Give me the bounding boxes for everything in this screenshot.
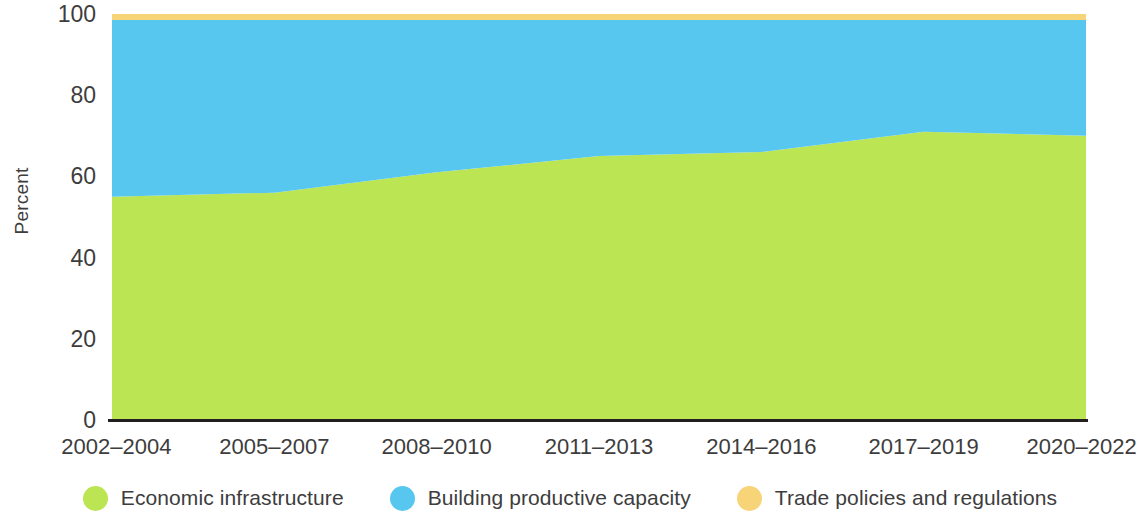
x-tick-label: 2002–2004 bbox=[61, 432, 171, 462]
y-tick-label: 100 bbox=[0, 3, 96, 26]
x-tick-label: 2011–2013 bbox=[545, 432, 654, 462]
x-tick-label: 2005–2007 bbox=[219, 432, 329, 462]
y-tick-label: 40 bbox=[0, 246, 96, 269]
y-axis-tick-labels: 100806040200 bbox=[0, 0, 96, 440]
x-tick-label: 2008–2010 bbox=[382, 432, 492, 462]
x-tick-label: 2020–2022 bbox=[1027, 432, 1137, 462]
x-axis-line bbox=[108, 419, 1088, 422]
legend-label: Economic infrastructure bbox=[121, 486, 344, 510]
x-tick-label: 2014–2016 bbox=[706, 432, 816, 462]
plot-area bbox=[112, 0, 1086, 426]
x-tick-label: 2017–2019 bbox=[869, 432, 979, 462]
y-tick-label: 80 bbox=[0, 84, 96, 107]
legend-label: Trade policies and regulations bbox=[775, 486, 1057, 510]
legend-item[interactable]: Building productive capacity bbox=[390, 486, 691, 511]
legend-swatch-icon bbox=[83, 486, 108, 511]
legend-label: Building productive capacity bbox=[428, 486, 691, 510]
chart-legend: Economic infrastructureBuilding producti… bbox=[0, 478, 1140, 518]
legend-swatch-icon bbox=[737, 486, 762, 511]
area-series-svg bbox=[112, 0, 1086, 426]
legend-item[interactable]: Economic infrastructure bbox=[83, 486, 344, 511]
y-tick-label: 60 bbox=[0, 165, 96, 188]
y-tick-label: 0 bbox=[0, 409, 96, 432]
legend-item[interactable]: Trade policies and regulations bbox=[737, 486, 1057, 511]
area-series-trade-policies-and-regulations bbox=[112, 14, 1086, 20]
x-axis-tick-labels: 2002–20042005–20072008–20102011–20132014… bbox=[112, 432, 1086, 466]
legend-swatch-icon bbox=[390, 486, 415, 511]
y-tick-label: 20 bbox=[0, 327, 96, 350]
stacked-area-chart: Percent 100806040200 2002–20042005–20072… bbox=[0, 0, 1140, 518]
